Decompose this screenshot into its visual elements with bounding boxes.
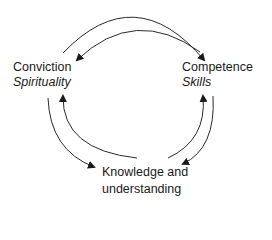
node-conviction: Conviction Spirituality: [13, 60, 71, 90]
arrow-conviction-to-knowledge: [48, 98, 94, 167]
arrow-knowledge-to-conviction: [63, 96, 137, 158]
node-knowledge: Knowledge and understanding: [102, 164, 188, 198]
node-competence: Competence Skills: [182, 60, 253, 90]
arrow-knowledge-to-competence: [168, 96, 203, 158]
node-title: Conviction: [13, 60, 71, 75]
arrow-competence-to-conviction: [77, 30, 200, 60]
node-title: Competence: [182, 60, 253, 75]
node-title-line2: understanding: [102, 181, 188, 198]
node-subtitle: Skills: [182, 75, 253, 90]
node-title-line1: Knowledge and: [102, 164, 188, 181]
node-subtitle: Spirituality: [13, 75, 71, 90]
